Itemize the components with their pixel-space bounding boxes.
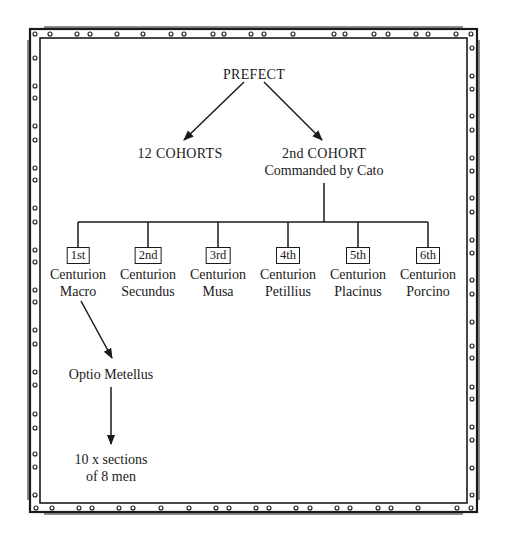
centurion-name: Porcino xyxy=(400,283,456,300)
centurion-title: Centurion xyxy=(260,266,316,283)
node-prefect: PREFECT xyxy=(223,66,285,83)
centurion-name: Petillius xyxy=(260,283,316,300)
centurion-title: Centurion xyxy=(190,266,246,283)
sections-line2: of 8 men xyxy=(74,468,147,485)
centurion-name: Musa xyxy=(190,283,246,300)
centurion-name: Macro xyxy=(50,283,106,300)
centurion-name: Placinus xyxy=(330,283,386,300)
arrow-prefect-to-cohorts xyxy=(184,82,244,140)
centurion-title: Centurion xyxy=(330,266,386,283)
node-2nd-cohort-commander: Commanded by Cato xyxy=(265,162,384,179)
sections-line1: 10 x sections xyxy=(74,451,147,468)
node-2nd-cohort: 2nd COHORT Commanded by Cato xyxy=(265,145,384,179)
rank-box-5th: 5th xyxy=(346,247,370,264)
rank-box-4th: 4th xyxy=(276,247,300,264)
node-centurion-musa: Centurion Musa xyxy=(190,266,246,300)
rank-box-3rd: 3rd xyxy=(206,247,231,264)
arrow-macro-to-optio xyxy=(81,301,112,358)
node-sections: 10 x sections of 8 men xyxy=(74,451,147,485)
connectors xyxy=(78,82,428,444)
node-centurion-placinus: Centurion Placinus xyxy=(330,266,386,300)
arrow-prefect-to-2nd-cohort xyxy=(264,82,322,140)
centurion-title: Centurion xyxy=(400,266,456,283)
node-centurion-porcino: Centurion Porcino xyxy=(400,266,456,300)
node-12-cohorts: 12 COHORTS xyxy=(137,145,222,162)
node-centurion-macro: Centurion Macro xyxy=(50,266,106,300)
node-centurion-petillius: Centurion Petillius xyxy=(260,266,316,300)
rank-box-2nd: 2nd xyxy=(135,247,162,264)
node-2nd-cohort-title: 2nd COHORT xyxy=(265,145,384,162)
rank-box-1st: 1st xyxy=(67,247,90,264)
rank-box-6th: 6th xyxy=(416,247,440,264)
node-optio-metellus: Optio Metellus xyxy=(69,366,153,383)
centurion-title: Centurion xyxy=(50,266,106,283)
node-centurion-secundus: Centurion Secundus xyxy=(120,266,176,300)
centurion-title: Centurion xyxy=(120,266,176,283)
centurion-name: Secundus xyxy=(120,283,176,300)
